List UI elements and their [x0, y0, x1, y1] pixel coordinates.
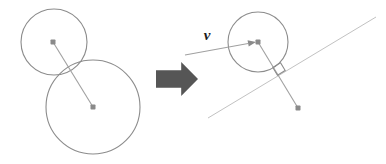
velocity-arrowhead-icon — [248, 40, 256, 46]
diagram-canvas: v — [0, 0, 386, 164]
velocity-vector-line — [185, 43, 248, 55]
arrow-right-block-icon — [156, 62, 198, 96]
small-circle-center-dot — [51, 40, 56, 45]
large-circle-center-dot — [91, 105, 96, 110]
velocity-label: v — [204, 27, 211, 43]
trajectory-line — [208, 17, 376, 118]
after-state-group: v — [185, 12, 376, 118]
transition-arrow-group — [156, 62, 198, 96]
target-point-dot — [296, 106, 301, 111]
moving-circle-center-dot — [256, 40, 261, 45]
physics-diagram: v — [0, 0, 386, 164]
before-state-group — [21, 9, 140, 154]
